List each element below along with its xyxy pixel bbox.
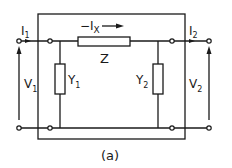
admittance-y2 — [153, 64, 163, 94]
impedance-z — [78, 37, 130, 46]
terminal-port2-top — [207, 39, 211, 43]
label-i2: I2 — [189, 24, 198, 40]
circuit-diagram: I1 I2 −IX Z Y1 Y2 V1 V2 (a) — [0, 0, 232, 168]
label-z: Z — [100, 51, 109, 66]
label-y2: Y2 — [135, 73, 148, 90]
node-port1-bottom-inner — [48, 126, 52, 130]
node-port2-bottom-inner — [170, 126, 174, 130]
label-v2: V2 — [189, 77, 202, 94]
terminal-port2-bottom — [207, 126, 211, 130]
ix-arrow-icon — [116, 24, 124, 29]
terminal-port1-top — [17, 39, 21, 43]
label-v1: V1 — [24, 77, 37, 94]
terminal-port1-bottom — [17, 126, 21, 130]
label-y1: Y1 — [67, 73, 80, 90]
label-ix: −IX — [80, 19, 100, 35]
admittance-y1 — [55, 64, 65, 94]
figure-caption: (a) — [101, 148, 119, 163]
node-port1-top-inner — [48, 39, 52, 43]
node-port2-top-inner — [170, 39, 174, 43]
label-i1: I1 — [21, 24, 30, 40]
v1-arrow-icon — [17, 46, 22, 54]
v2-arrow-icon — [207, 46, 212, 54]
